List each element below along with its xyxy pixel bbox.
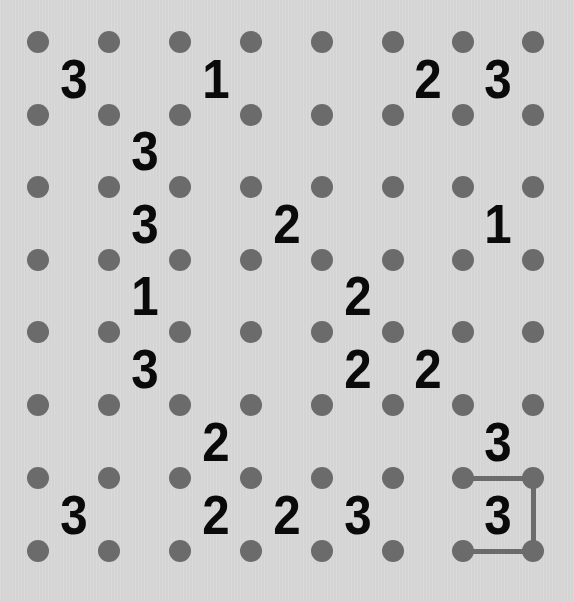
cell-r3c2-empty[interactable]	[185, 260, 247, 332]
grid-dot[interactable]	[27, 249, 49, 271]
cell-r5c5-empty[interactable]	[397, 406, 459, 478]
cell-r1c0-empty[interactable]	[43, 115, 105, 187]
cell-r1c1-clue[interactable]: 3	[114, 115, 176, 187]
cell-r4c4-clue[interactable]: 2	[327, 333, 389, 405]
grid-dot[interactable]	[452, 104, 474, 126]
grid-dot[interactable]	[169, 104, 191, 126]
cell-r2c3-clue[interactable]: 2	[256, 188, 318, 260]
grid-dot[interactable]	[452, 31, 474, 53]
grid-dot[interactable]	[27, 467, 49, 489]
cell-r5c4-empty[interactable]	[327, 406, 389, 478]
grid-dot[interactable]	[452, 394, 474, 416]
cell-r3c1-clue[interactable]: 1	[114, 260, 176, 332]
cell-r2c6-clue[interactable]: 1	[467, 188, 529, 260]
cell-r5c0-empty[interactable]	[43, 406, 105, 478]
grid-dot[interactable]	[382, 467, 404, 489]
grid-dot[interactable]	[240, 467, 262, 489]
grid-dot[interactable]	[27, 104, 49, 126]
cell-r3c4-clue[interactable]: 2	[327, 260, 389, 332]
grid-dot[interactable]	[98, 104, 120, 126]
cell-r2c0-empty[interactable]	[43, 188, 105, 260]
grid-dot[interactable]	[522, 31, 544, 53]
grid-dot[interactable]	[382, 104, 404, 126]
grid-dot[interactable]	[169, 467, 191, 489]
cell-r0c0-clue[interactable]: 3	[43, 43, 105, 115]
grid-dot[interactable]	[311, 176, 333, 198]
cell-r6c5-empty[interactable]	[397, 479, 459, 551]
cell-r1c3-empty[interactable]	[256, 115, 318, 187]
grid-dot[interactable]	[382, 321, 404, 343]
grid-dot[interactable]	[169, 321, 191, 343]
cell-r4c5-clue[interactable]: 2	[397, 333, 459, 405]
grid-dot[interactable]	[382, 540, 404, 562]
cell-r3c3-empty[interactable]	[256, 260, 318, 332]
grid-dot[interactable]	[27, 31, 49, 53]
grid-dot[interactable]	[98, 540, 120, 562]
grid-dot[interactable]	[522, 104, 544, 126]
grid-dot[interactable]	[522, 467, 544, 489]
cell-r4c1-clue[interactable]: 3	[114, 333, 176, 405]
grid-dot[interactable]	[452, 540, 474, 562]
cell-r0c3-empty[interactable]	[256, 43, 318, 115]
grid-dot[interactable]	[240, 321, 262, 343]
grid-dot[interactable]	[240, 249, 262, 271]
grid-dot[interactable]	[382, 394, 404, 416]
grid-dot[interactable]	[452, 176, 474, 198]
cell-r5c6-clue[interactable]: 3	[467, 406, 529, 478]
cell-r1c2-empty[interactable]	[185, 115, 247, 187]
grid-dot[interactable]	[522, 394, 544, 416]
grid-dot[interactable]	[452, 321, 474, 343]
cell-r0c4-empty[interactable]	[327, 43, 389, 115]
grid-dot[interactable]	[452, 467, 474, 489]
grid-dot[interactable]	[98, 249, 120, 271]
cell-r2c4-empty[interactable]	[327, 188, 389, 260]
grid-dot[interactable]	[311, 394, 333, 416]
grid-dot[interactable]	[311, 321, 333, 343]
cell-r2c5-empty[interactable]	[397, 188, 459, 260]
grid-dot[interactable]	[98, 467, 120, 489]
grid-dot[interactable]	[98, 176, 120, 198]
cell-r5c3-empty[interactable]	[256, 406, 318, 478]
grid-dot[interactable]	[27, 394, 49, 416]
grid-dot[interactable]	[169, 31, 191, 53]
grid-dot[interactable]	[311, 540, 333, 562]
cell-r6c3-clue[interactable]: 2	[256, 479, 318, 551]
grid-dot[interactable]	[382, 31, 404, 53]
grid-dot[interactable]	[169, 540, 191, 562]
cell-r6c2-clue[interactable]: 2	[185, 479, 247, 551]
grid-dot[interactable]	[240, 31, 262, 53]
cell-r2c1-clue[interactable]: 3	[114, 188, 176, 260]
grid-dot[interactable]	[27, 321, 49, 343]
cell-r3c6-empty[interactable]	[467, 260, 529, 332]
grid-dot[interactable]	[382, 176, 404, 198]
cell-r6c0-clue[interactable]: 3	[43, 479, 105, 551]
cell-r3c5-empty[interactable]	[397, 260, 459, 332]
grid-dot[interactable]	[98, 31, 120, 53]
cell-r1c5-empty[interactable]	[397, 115, 459, 187]
cell-r4c2-empty[interactable]	[185, 333, 247, 405]
grid-dot[interactable]	[240, 540, 262, 562]
cell-r1c6-empty[interactable]	[467, 115, 529, 187]
grid-dot[interactable]	[169, 249, 191, 271]
cell-r1c4-empty[interactable]	[327, 115, 389, 187]
grid-dot[interactable]	[452, 249, 474, 271]
grid-dot[interactable]	[311, 104, 333, 126]
cell-r5c1-empty[interactable]	[114, 406, 176, 478]
grid-dot[interactable]	[311, 31, 333, 53]
cell-r4c3-empty[interactable]	[256, 333, 318, 405]
grid-dot[interactable]	[522, 176, 544, 198]
cell-r0c1-empty[interactable]	[114, 43, 176, 115]
grid-dot[interactable]	[27, 540, 49, 562]
grid-dot[interactable]	[522, 540, 544, 562]
grid-dot[interactable]	[240, 394, 262, 416]
cell-r0c5-clue[interactable]: 2	[397, 43, 459, 115]
grid-dot[interactable]	[522, 249, 544, 271]
cell-r6c4-clue[interactable]: 3	[327, 479, 389, 551]
grid-dot[interactable]	[240, 176, 262, 198]
cell-r0c6-clue[interactable]: 3	[467, 43, 529, 115]
cell-r4c6-empty[interactable]	[467, 333, 529, 405]
grid-dot[interactable]	[169, 176, 191, 198]
cell-r5c2-clue[interactable]: 2	[185, 406, 247, 478]
grid-dot[interactable]	[240, 104, 262, 126]
grid-dot[interactable]	[311, 249, 333, 271]
